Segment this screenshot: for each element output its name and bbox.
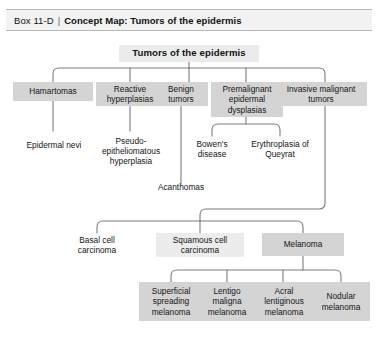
node-pseudoepitheliomatous-hyperplasia-label: Pseudo-epitheliomatous hyperplasia	[93, 136, 169, 167]
node-invasive-malignant-tumors[interactable]: Invasive malignant tumors	[275, 82, 367, 106]
node-acanthomas[interactable]: Acanthomas	[140, 181, 222, 194]
node-epidermal-nevi[interactable]: Epidermal nevi	[19, 133, 89, 157]
concept-map-figure: Box 11-D | Concept Map: Tumors of the ep…	[0, 0, 378, 340]
node-acanthomas-label: Acanthomas	[158, 182, 204, 192]
node-bowens-disease[interactable]: Bowen's disease	[181, 137, 243, 161]
node-squamous-cell-carcinoma-label: Squamous cell carcinoma	[159, 235, 241, 255]
node-invasive-malignant-tumors-label: Invasive malignant tumors	[278, 84, 364, 104]
node-benign-tumors[interactable]: Benign tumors	[154, 82, 208, 106]
node-reactive-hyperplasias-label: Reactive hyperplasias	[99, 84, 161, 104]
node-bowens-disease-label: Bowen's disease	[184, 139, 240, 159]
node-superficial-spreading-melanoma[interactable]: Superficial spreading melanoma	[139, 282, 203, 321]
node-basal-cell-carcinoma[interactable]: Basal cell carcinoma	[60, 233, 134, 257]
node-pseudoepitheliomatous-hyperplasia[interactable]: Pseudo-epitheliomatous hyperplasia	[90, 133, 172, 169]
node-root[interactable]: Tumors of the epidermis	[119, 45, 259, 62]
node-nodular-melanoma[interactable]: Nodular melanoma	[312, 282, 370, 321]
node-benign-tumors-label: Benign tumors	[157, 84, 205, 104]
node-erythroplasia-of-queyrat-label: Erythroplasia of Queyrat	[249, 139, 311, 159]
node-erythroplasia-of-queyrat[interactable]: Erythroplasia of Queyrat	[246, 137, 314, 161]
node-acral-lentiginous-melanoma-label: Acral lentiginous melanoma	[256, 286, 312, 317]
node-nodular-melanoma-label: Nodular melanoma	[315, 291, 367, 311]
node-lentigo-maligna-melanoma-label: Lentigo maligna melanoma	[200, 286, 254, 317]
node-root-label: Tumors of the epidermis	[132, 48, 246, 58]
node-hamartomas[interactable]: Hamartomas	[13, 82, 93, 101]
node-superficial-spreading-melanoma-label: Superficial spreading melanoma	[142, 286, 200, 317]
node-melanoma-label: Melanoma	[284, 239, 323, 249]
node-squamous-cell-carcinoma[interactable]: Squamous cell carcinoma	[156, 233, 244, 257]
node-lentigo-maligna-melanoma[interactable]: Lentigo maligna melanoma	[197, 282, 257, 321]
node-basal-cell-carcinoma-label: Basal cell carcinoma	[63, 235, 131, 255]
node-epidermal-nevi-label: Epidermal nevi	[27, 140, 82, 150]
node-hamartomas-label: Hamartomas	[29, 86, 77, 96]
node-premalignant-epidermal-dysplasias[interactable]: Premalignant epidermal dysplasias	[211, 82, 283, 117]
node-acral-lentiginous-melanoma[interactable]: Acral lentiginous melanoma	[253, 282, 315, 321]
node-premalignant-epidermal-dysplasias-label: Premalignant epidermal dysplasias	[214, 84, 280, 115]
node-melanoma[interactable]: Melanoma	[262, 233, 344, 256]
